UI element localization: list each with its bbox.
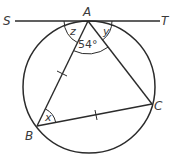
label-point-b: B [25,129,33,143]
geometry-diagram: S T A B C z y 54° x [0,0,171,156]
side-bc [37,104,152,126]
label-angle-y: y [102,25,110,38]
label-angle-z: z [69,25,76,38]
label-point-s: S [3,14,11,28]
label-angle-54: 54° [78,38,98,51]
label-point-c: C [154,99,163,113]
side-ac [88,21,152,104]
label-angle-x: x [44,111,52,124]
label-point-t: T [161,14,170,28]
label-point-a: A [82,5,91,19]
